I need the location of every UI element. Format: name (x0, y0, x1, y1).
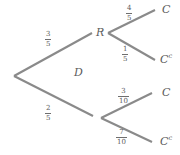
fraction-numerator: 4 (126, 5, 132, 13)
leaf-base-c-bottom: C (162, 86, 170, 99)
probability-d-to-cc: 7 10 (116, 129, 127, 146)
fraction-denominator: 10 (118, 98, 129, 106)
fraction-numerator: 3 (45, 31, 51, 39)
leaf-sup-cc-top: c (168, 52, 172, 60)
leaf-label-c-top: C (162, 3, 170, 15)
fraction-numerator: 7 (116, 129, 127, 137)
leaf-label-cc-top: Cc (160, 53, 172, 65)
probability-root-to-r: 3 5 (45, 31, 51, 48)
fraction-denominator: 5 (126, 15, 132, 23)
fraction-denominator: 5 (122, 56, 128, 64)
probability-tree-figure: R D C Cc C Cc 3 5 2 5 4 5 1 5 3 10 7 (0, 0, 180, 155)
fraction-denominator: 5 (45, 115, 51, 123)
node-label-d: D (74, 67, 83, 78)
probability-r-to-c: 4 5 (126, 5, 132, 22)
leaf-base-c-top: C (162, 3, 170, 16)
branch-r-to-cc (108, 33, 155, 60)
node-label-r: R (96, 27, 104, 38)
leaf-sup-cc-bottom: c (168, 134, 172, 142)
tree-branches (0, 0, 180, 155)
fraction-denominator: 5 (45, 41, 51, 49)
branch-root-to-d (14, 76, 93, 116)
probability-d-to-c: 3 10 (118, 88, 129, 105)
probability-r-to-cc: 1 5 (122, 46, 128, 63)
leaf-label-c-bottom: C (162, 86, 170, 98)
fraction-denominator: 10 (116, 139, 127, 147)
leaf-label-cc-bottom: Cc (160, 135, 172, 147)
fraction-numerator: 2 (45, 105, 51, 113)
fraction-numerator: 1 (122, 46, 128, 54)
fraction-numerator: 3 (118, 88, 129, 96)
probability-root-to-d: 2 5 (45, 105, 51, 122)
